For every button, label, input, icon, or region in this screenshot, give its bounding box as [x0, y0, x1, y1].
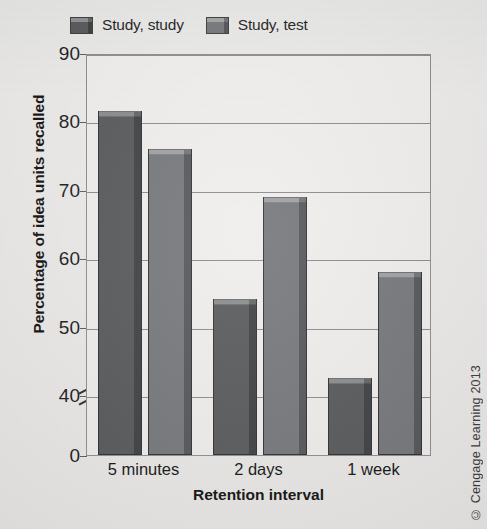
y-tick-label-0: 0: [36, 445, 80, 467]
legend-label-study-study: Study, study: [102, 16, 184, 34]
bar-face: [98, 111, 142, 455]
bar-side-shadow: [134, 112, 141, 454]
legend-entry-study-study: Study, study: [70, 16, 184, 34]
y-tick-mark-0: [80, 456, 87, 457]
legend-swatch-study-study: [70, 17, 93, 34]
x-axis-title: Retention interval: [86, 486, 431, 504]
x-tick-label-2: 1 week: [347, 460, 399, 479]
bar-side-shadow: [414, 273, 421, 454]
bar-side-shadow: [364, 379, 371, 454]
bar-study-test-2: [378, 272, 422, 455]
bar-side-shadow: [299, 198, 306, 454]
x-tick-label-1: 2 days: [234, 460, 283, 479]
bar-side-shadow: [249, 300, 256, 454]
bar-study-test-0: [148, 149, 192, 455]
y-axis-title: Percentage of idea units recalled: [30, 49, 48, 379]
bar-study-test-1: [263, 197, 307, 455]
bar-face: [378, 272, 422, 455]
legend-label-study-test: Study, test: [238, 16, 308, 34]
bar-face: [328, 378, 372, 455]
legend-entry-study-test: Study, test: [206, 16, 308, 34]
bar-face: [263, 197, 307, 455]
x-axis-ticks: 5 minutes2 days1 week: [86, 460, 431, 484]
bar-side-shadow: [184, 150, 191, 454]
bar-face: [148, 149, 192, 455]
x-tick-label-0: 5 minutes: [108, 460, 180, 479]
bar-face: [213, 299, 257, 455]
bar-study-study-0: [98, 111, 142, 455]
chart-legend: Study, study Study, test: [70, 12, 370, 38]
y-tick-label-40: 40: [36, 385, 80, 407]
bar-chart-figure: Study, study Study, test 0405060708090 P…: [0, 0, 487, 529]
bar-study-study-2: [328, 378, 372, 455]
copyright-notice: © Cengage Learning 2013: [469, 365, 483, 521]
bar-study-study-1: [213, 299, 257, 455]
bars-layer: [87, 55, 430, 455]
plot-area: [86, 54, 431, 456]
legend-swatch-study-test: [206, 17, 229, 34]
